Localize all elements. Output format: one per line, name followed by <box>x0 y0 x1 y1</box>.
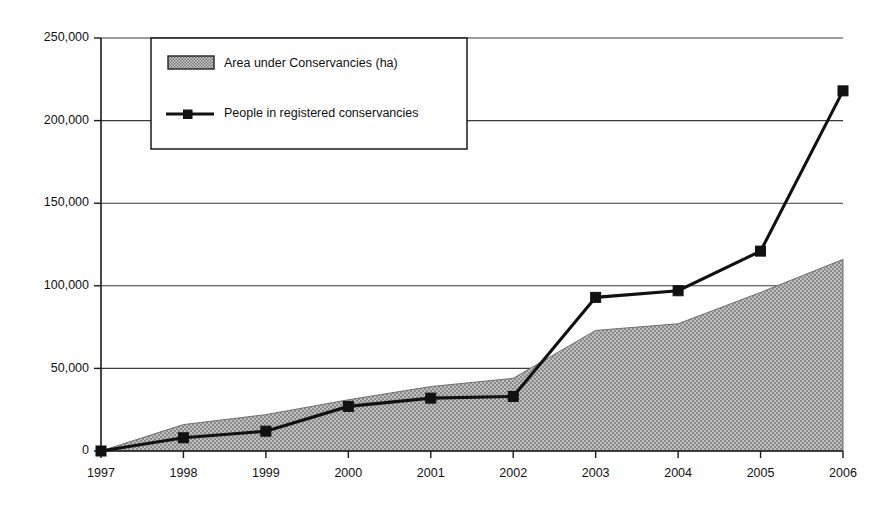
data-point-marker-2004 <box>673 286 683 296</box>
x-tick-label-2006: 2006 <box>829 466 857 480</box>
legend-swatch-area-icon <box>168 56 214 69</box>
chart-container: 050,000100,000150,000200,000250,000 1997… <box>0 0 888 518</box>
legend-label-area: Area under Conservancies (ha) <box>224 56 398 70</box>
y-tick-label-0: 0 <box>82 443 89 457</box>
y-axis-tick-labels: 050,000100,000150,000200,000250,000 <box>44 30 89 457</box>
y-tick-label-50000: 50,000 <box>51 361 89 375</box>
data-point-marker-2000 <box>343 401 353 411</box>
data-point-marker-2005 <box>756 246 766 256</box>
y-tick-label-250000: 250,000 <box>44 30 89 44</box>
y-tick-label-100000: 100,000 <box>44 278 89 292</box>
data-point-marker-1999 <box>261 426 271 436</box>
x-tick-label-2003: 2003 <box>582 466 610 480</box>
y-tick-label-200000: 200,000 <box>44 113 89 127</box>
data-point-marker-1998 <box>178 433 188 443</box>
data-point-marker-2006 <box>838 86 848 96</box>
x-tick-label-2001: 2001 <box>417 466 445 480</box>
x-tick-label-2000: 2000 <box>334 466 362 480</box>
chart-legend: Area under Conservancies (ha) People in … <box>151 38 467 149</box>
x-tick-label-1997: 1997 <box>87 466 115 480</box>
area-series-area-under-conservancies <box>101 259 843 451</box>
x-tick-label-1998: 1998 <box>170 466 198 480</box>
x-tick-label-1999: 1999 <box>252 466 280 480</box>
data-point-marker-2002 <box>508 391 518 401</box>
x-tick-label-2005: 2005 <box>747 466 775 480</box>
legend-box <box>151 38 467 149</box>
data-point-marker-1997 <box>96 446 106 456</box>
legend-label-people: People in registered conservancies <box>224 106 419 120</box>
x-axis-tick-labels: 1997199819992000200120022003200420052006 <box>87 466 857 480</box>
legend-marker-people-icon <box>183 110 193 120</box>
area-fill <box>101 259 843 451</box>
chart-canvas: 050,000100,000150,000200,000250,000 1997… <box>0 0 888 518</box>
y-tick-label-150000: 150,000 <box>44 195 89 209</box>
data-point-marker-2003 <box>591 292 601 302</box>
x-tick-label-2002: 2002 <box>499 466 527 480</box>
x-tick-label-2004: 2004 <box>664 466 692 480</box>
data-point-marker-2001 <box>426 393 436 403</box>
